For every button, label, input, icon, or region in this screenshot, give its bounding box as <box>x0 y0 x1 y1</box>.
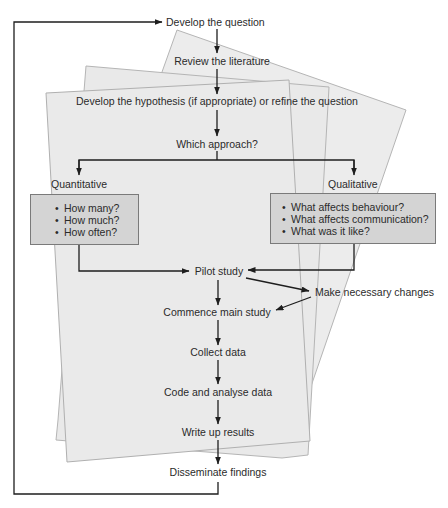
step-disseminate-findings: Disseminate findings <box>170 466 267 478</box>
step-which-approach: Which approach? <box>176 138 258 150</box>
qualitative-question: What affects behaviour? <box>282 201 435 213</box>
qualitative-questions-box: What affects behaviour? What affects com… <box>270 193 436 244</box>
step-code-analyse-data: Code and analyse data <box>164 386 272 398</box>
branch-qualitative-label: Qualitative <box>328 178 378 190</box>
step-develop-hypothesis: Develop the hypothesis (if appropriate) … <box>76 95 358 107</box>
quantitative-questions-box: How many? How much? How often? <box>30 194 139 245</box>
qualitative-question: What affects communication? <box>282 213 435 225</box>
step-develop-question: Develop the question <box>166 16 265 28</box>
step-review-literature: Review the literature <box>174 55 270 67</box>
branch-quantitative-label: Quantitative <box>51 178 107 190</box>
step-collect-data: Collect data <box>190 346 245 358</box>
step-make-necessary-changes: Make necessary changes <box>315 286 434 298</box>
qualitative-question: What was it like? <box>282 225 435 237</box>
quantitative-question: How many? <box>55 202 138 214</box>
quantitative-question: How often? <box>55 226 138 238</box>
quantitative-question: How much? <box>55 214 138 226</box>
step-commence-main-study: Commence main study <box>163 306 270 318</box>
step-pilot-study: Pilot study <box>195 265 243 277</box>
step-write-up-results: Write up results <box>182 426 255 438</box>
